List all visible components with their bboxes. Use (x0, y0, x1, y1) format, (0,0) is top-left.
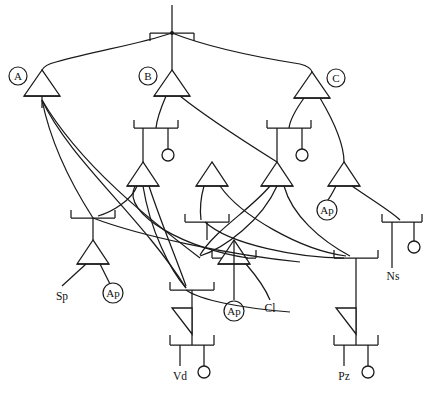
bubble-pz-icon (362, 366, 374, 378)
badge-ap-1-label: Ap (106, 287, 120, 299)
edge-cl-leaf (246, 264, 270, 300)
badge-c-label: C (332, 72, 339, 84)
root-branch (42, 5, 312, 72)
node-ns-group[interactable]: Ns (382, 214, 422, 282)
edge-b-to-node-b1 (156, 96, 166, 128)
gate-c2-triangle[interactable] (261, 162, 293, 186)
edge-sp-ap (100, 264, 110, 284)
edge-c2-right (284, 186, 350, 256)
edge-c3-to-ap (327, 186, 336, 201)
gate-b-triangle[interactable] (154, 70, 190, 96)
edge-cross-4 (200, 186, 277, 256)
leaf-ns-label: Ns (387, 270, 400, 282)
gate-c-triangle[interactable] (294, 72, 330, 98)
bubble-ns-icon (408, 241, 420, 253)
gate-a-group[interactable]: A (9, 67, 200, 288)
edge-b3-right (220, 186, 346, 256)
bubble-c1-icon (296, 149, 308, 161)
edge-a-to-sp (42, 100, 93, 218)
edge-b3-left (200, 186, 204, 220)
badge-ap-3-label: Ap (320, 204, 334, 216)
badge-b-label: B (144, 70, 151, 82)
gate-vd-skew-triangle[interactable] (172, 308, 192, 334)
gate-a-triangle[interactable] (24, 70, 60, 96)
edge-sp-leaf (62, 264, 86, 286)
gate-c3-triangle[interactable] (328, 162, 360, 186)
bubble-b1-icon (162, 149, 174, 161)
gate-network-diagram: A B C (0, 0, 428, 404)
leaf-sp-label: Sp (56, 290, 68, 303)
edge-a-to-cl (42, 100, 200, 258)
root-to-a-edge (42, 33, 172, 70)
gate-b-group[interactable]: B (139, 67, 277, 162)
edge-c-to-c3 (320, 98, 344, 162)
gate-b2-triangle[interactable] (127, 162, 159, 186)
node-mid-group[interactable] (170, 282, 214, 345)
edge-c3-to-ns (352, 186, 400, 220)
leaf-vd-label: Vd (173, 370, 187, 382)
gate-b3-triangle[interactable] (196, 162, 228, 186)
diagram-canvas: A B C (0, 0, 428, 404)
gate-c3-group[interactable]: Ap (317, 162, 400, 220)
edge-b-to-c2 (180, 96, 277, 162)
leaf-pz-label: Pz (338, 370, 350, 382)
gate-sp-triangle[interactable] (77, 240, 109, 264)
gate-pz-skew-triangle[interactable] (336, 308, 356, 334)
root-to-c-edge (172, 33, 312, 72)
bubble-vd-icon (198, 366, 210, 378)
node-mid2-group[interactable] (334, 250, 378, 345)
edge-cross-1 (143, 186, 186, 288)
leaf-cl-label: Cl (265, 302, 276, 314)
edge-c-to-node-c1 (289, 98, 304, 128)
gate-c-group[interactable]: C (289, 69, 345, 162)
node-sp-group[interactable]: Ap Sp (56, 210, 123, 303)
badge-ap-2-label: Ap (227, 305, 241, 317)
crossing-edges (93, 186, 344, 312)
badge-a-label: A (14, 70, 22, 82)
node-ap2-group[interactable] (185, 214, 229, 240)
